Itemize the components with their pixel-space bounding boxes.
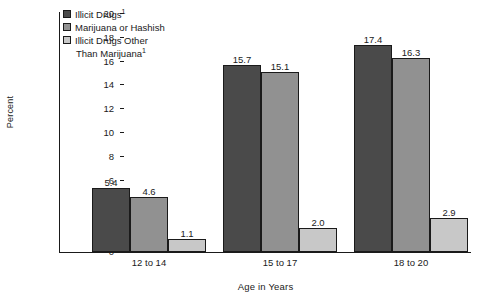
bar: 5.4 [92, 188, 130, 252]
bar: 2.9 [430, 218, 468, 253]
chart-legend: Illicit Drugs1Marijuana or HashishIllici… [63, 8, 213, 60]
legend-footnote-marker: 1 [121, 8, 125, 15]
legend-label-continuation: Than Marijuana1 [76, 47, 213, 60]
bar: 17.4 [354, 45, 392, 252]
bar: 15.1 [261, 72, 299, 252]
bar-value-label: 15.1 [271, 61, 290, 72]
x-axis-category-label: 18 to 20 [354, 257, 468, 268]
bar-value-label: 5.4 [104, 177, 117, 188]
bar-value-label: 2.9 [442, 207, 455, 218]
legend-footnote-marker: 1 [142, 47, 146, 54]
bar: 4.6 [130, 197, 168, 252]
bar: 2.0 [299, 228, 337, 252]
bar: 15.7 [223, 65, 261, 252]
bar-group: 17.416.32.9 [354, 14, 468, 252]
bar-value-label: 15.7 [233, 54, 252, 65]
bar-value-label: 2.0 [311, 217, 324, 228]
bar-value-label: 1.1 [180, 228, 193, 239]
bar-chart: Percent 20181614121086420 5.44.61.112 to… [0, 0, 486, 300]
bar-value-label: 4.6 [142, 186, 155, 197]
legend-item: Illicit Drugs1 [63, 8, 213, 21]
legend-item: Marijuana or Hashish [63, 21, 213, 34]
legend-swatch-icon [63, 36, 71, 44]
y-axis-ticks: 20181614121086420 [0, 0, 60, 300]
legend-swatch-icon [63, 10, 71, 18]
x-axis-category-label: 12 to 14 [92, 257, 206, 268]
bar: 16.3 [392, 58, 430, 252]
legend-swatch-icon [63, 23, 71, 31]
legend-label: Illicit Drugs1 [75, 8, 125, 21]
x-axis-title: Age in Years [60, 281, 471, 292]
x-axis-category-label: 15 to 17 [223, 257, 337, 268]
legend-label: Marijuana or Hashish [75, 21, 165, 34]
bar-group: 15.715.12.0 [223, 14, 337, 252]
bar-value-label: 17.4 [364, 34, 383, 45]
bar: 1.1 [168, 239, 206, 252]
legend-item: Illicit Drugs Other [63, 34, 213, 47]
bar-value-label: 16.3 [402, 47, 421, 58]
legend-label: Illicit Drugs Other [75, 34, 148, 47]
